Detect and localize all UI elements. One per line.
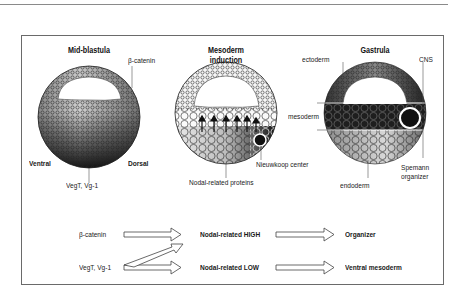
label-nieuwkoop-center: Nieuwkoop center [256, 160, 309, 170]
pathway-input-vegt-vg1: VegT, Vg-1 [79, 263, 111, 273]
label-spemann-line2: organizer [401, 172, 428, 182]
label-ectoderm: ectoderm [302, 55, 329, 65]
mid-blastula-embryo [38, 66, 140, 183]
label-beta-catenin: β-catenin [128, 56, 155, 66]
panel-title-mesoderm-line2: induction [190, 55, 262, 66]
gastrula-embryo [317, 62, 434, 178]
panel-title-mid-blastula: Mid-blastula [53, 45, 125, 56]
panel-title-gastrula: Gastrula [339, 45, 411, 56]
pathway-input-beta-catenin: β-catenin [79, 230, 106, 240]
label-cns: CNS [419, 55, 433, 65]
pathway-output-ventral-mesoderm: Ventral mesoderm [345, 263, 402, 273]
label-vegt-vg1: VegT, Vg-1 [66, 181, 98, 191]
label-ventral: Ventral [29, 159, 51, 169]
label-dorsal: Dorsal [128, 159, 148, 169]
label-endoderm: endoderm [340, 181, 370, 191]
label-nodal-related-proteins: Nodal-related proteins [189, 178, 254, 188]
pathway-nodal-high: Nodal-related HIGH [200, 230, 260, 240]
pathway-nodal-low: Nodal-related LOW [200, 263, 259, 273]
label-mesoderm: mesoderm [288, 112, 319, 122]
pathway-output-organizer: Organizer [345, 230, 376, 240]
